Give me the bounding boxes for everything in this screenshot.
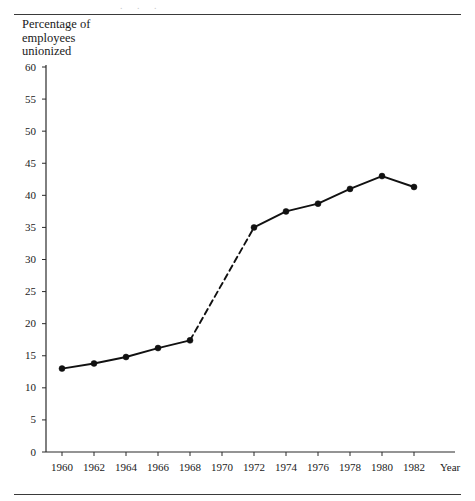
y-tick-label: 40 [14,190,36,201]
data-point-marker [123,354,129,360]
data-point-marker [347,186,353,192]
y-tick-label: 10 [14,382,36,393]
figure-container: . . . Percentage of employees unionized … [0,0,475,501]
axis-ticks [42,67,414,456]
y-tick-label: 50 [14,126,36,137]
data-point-marker [251,224,257,230]
series-segment-dashed [190,227,254,340]
data-point-marker [187,337,193,343]
y-tick-label: 55 [14,94,36,105]
data-point-marker [411,184,417,190]
y-tick-label: 0 [14,447,36,458]
y-tick-label: 35 [14,222,36,233]
x-axis-label: Year [440,462,460,473]
y-tick-label: 15 [14,350,36,361]
data-point-marker [379,173,385,179]
data-point-marker [155,345,161,351]
y-tick-label: 20 [14,318,36,329]
y-tick-label: 25 [14,286,36,297]
y-tick-label: 60 [14,62,36,73]
data-series-unionization [62,176,414,368]
data-point-marker [315,201,321,207]
series-segment-solid [254,176,414,227]
data-point-marker [283,208,289,214]
y-tick-label: 5 [14,414,36,425]
data-point-markers [59,173,417,371]
axis-lines [46,65,455,452]
x-tick-label: 1982 [391,462,437,473]
data-point-marker [91,360,97,366]
line-chart-plot [0,0,475,501]
y-tick-label: 30 [14,254,36,265]
data-point-marker [59,366,65,372]
y-tick-label: 45 [14,158,36,169]
